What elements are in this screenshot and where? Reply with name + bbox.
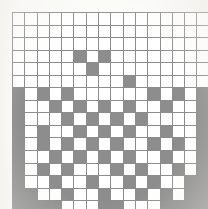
grid-cell-empty[interactable] bbox=[37, 13, 49, 26]
grid-cell-empty[interactable] bbox=[148, 188, 160, 201]
grid-cell-empty[interactable] bbox=[148, 151, 160, 164]
grid-cell-filled[interactable] bbox=[135, 188, 147, 201]
grid-cell-empty[interactable] bbox=[160, 138, 172, 151]
grid-cell-empty[interactable] bbox=[172, 125, 184, 138]
grid-cell-filled[interactable] bbox=[111, 138, 123, 151]
grid-cell-empty[interactable] bbox=[99, 38, 111, 51]
grid-cell-empty[interactable] bbox=[25, 25, 37, 38]
grid-cell-empty[interactable] bbox=[135, 50, 147, 63]
grid-cell-filled[interactable] bbox=[123, 176, 135, 189]
grid-cell-filled[interactable] bbox=[86, 138, 98, 151]
grid-cell-filled[interactable] bbox=[185, 201, 197, 209]
grid-cell-filled[interactable] bbox=[197, 176, 208, 189]
grid-cell-empty[interactable] bbox=[135, 176, 147, 189]
grid-cell-empty[interactable] bbox=[62, 13, 74, 26]
grid-cell-empty[interactable] bbox=[111, 63, 123, 76]
grid-cell-filled[interactable] bbox=[160, 201, 172, 209]
grid-cell-empty[interactable] bbox=[49, 188, 61, 201]
grid-cell-empty[interactable] bbox=[62, 38, 74, 51]
grid-cell-empty[interactable] bbox=[172, 63, 184, 76]
grid-cell-empty[interactable] bbox=[148, 201, 160, 209]
grid-cell-empty[interactable] bbox=[13, 75, 25, 88]
grid-cell-empty[interactable] bbox=[25, 88, 37, 101]
grid-cell-empty[interactable] bbox=[135, 125, 147, 138]
grid-cell-empty[interactable] bbox=[74, 138, 86, 151]
grid-cell-filled[interactable] bbox=[197, 100, 208, 113]
grid-cell-empty[interactable] bbox=[25, 13, 37, 26]
grid-cell-empty[interactable] bbox=[160, 176, 172, 189]
grid-cell-empty[interactable] bbox=[111, 13, 123, 26]
grid-cell-empty[interactable] bbox=[160, 88, 172, 101]
grid-cell-empty[interactable] bbox=[111, 50, 123, 63]
grid-cell-empty[interactable] bbox=[185, 63, 197, 76]
grid-cell-empty[interactable] bbox=[13, 63, 25, 76]
grid-cell-empty[interactable] bbox=[111, 151, 123, 164]
grid-cell-empty[interactable] bbox=[86, 163, 98, 176]
grid-cell-empty[interactable] bbox=[135, 38, 147, 51]
grid-cell-filled[interactable] bbox=[13, 88, 25, 101]
grid-cell-empty[interactable] bbox=[49, 125, 61, 138]
grid-cell-empty[interactable] bbox=[86, 188, 98, 201]
grid-cell-filled[interactable] bbox=[62, 88, 74, 101]
grid-cell-empty[interactable] bbox=[74, 13, 86, 26]
grid-cell-empty[interactable] bbox=[25, 163, 37, 176]
grid-cell-filled[interactable] bbox=[172, 201, 184, 209]
grid-cell-empty[interactable] bbox=[111, 125, 123, 138]
grid-cell-empty[interactable] bbox=[99, 138, 111, 151]
grid-cell-empty[interactable] bbox=[172, 13, 184, 26]
grid-cell-empty[interactable] bbox=[37, 75, 49, 88]
grid-cell-empty[interactable] bbox=[62, 176, 74, 189]
grid-cell-empty[interactable] bbox=[123, 163, 135, 176]
grid-cell-empty[interactable] bbox=[86, 88, 98, 101]
grid-cell-empty[interactable] bbox=[49, 113, 61, 126]
grid-cell-empty[interactable] bbox=[185, 25, 197, 38]
grid-cell-empty[interactable] bbox=[148, 50, 160, 63]
grid-cell-empty[interactable] bbox=[172, 176, 184, 189]
grid-cell-empty[interactable] bbox=[185, 38, 197, 51]
grid-cell-filled[interactable] bbox=[13, 201, 25, 209]
grid-cell-filled[interactable] bbox=[62, 138, 74, 151]
grid-cell-empty[interactable] bbox=[135, 63, 147, 76]
grid-cell-empty[interactable] bbox=[49, 13, 61, 26]
grid-cell-empty[interactable] bbox=[62, 50, 74, 63]
grid-cell-empty[interactable] bbox=[37, 188, 49, 201]
grid-cell-filled[interactable] bbox=[160, 151, 172, 164]
grid-cell-empty[interactable] bbox=[37, 151, 49, 164]
grid-cell-empty[interactable] bbox=[62, 125, 74, 138]
grid-cell-empty[interactable] bbox=[49, 163, 61, 176]
grid-cell-empty[interactable] bbox=[123, 63, 135, 76]
grid-cell-empty[interactable] bbox=[25, 50, 37, 63]
grid-cell-empty[interactable] bbox=[99, 13, 111, 26]
grid-cell-empty[interactable] bbox=[62, 63, 74, 76]
grid-cell-empty[interactable] bbox=[123, 113, 135, 126]
grid-cell-empty[interactable] bbox=[160, 113, 172, 126]
grid-cell-empty[interactable] bbox=[13, 50, 25, 63]
grid-cell-empty[interactable] bbox=[25, 38, 37, 51]
grid-cell-filled[interactable] bbox=[49, 176, 61, 189]
grid-cell-empty[interactable] bbox=[86, 125, 98, 138]
grid-cell-empty[interactable] bbox=[111, 188, 123, 201]
grid-cell-empty[interactable] bbox=[160, 163, 172, 176]
grid-cell-empty[interactable] bbox=[74, 188, 86, 201]
grid-cell-filled[interactable] bbox=[148, 88, 160, 101]
grid-cell-empty[interactable] bbox=[99, 113, 111, 126]
grid-cell-filled[interactable] bbox=[160, 125, 172, 138]
grid-cell-empty[interactable] bbox=[49, 63, 61, 76]
grid-cell-empty[interactable] bbox=[135, 100, 147, 113]
grid-cell-empty[interactable] bbox=[135, 201, 147, 209]
grid-cell-filled[interactable] bbox=[49, 100, 61, 113]
grid-cell-filled[interactable] bbox=[111, 113, 123, 126]
grid-cell-filled[interactable] bbox=[86, 63, 98, 76]
grid-cell-filled[interactable] bbox=[13, 151, 25, 164]
grid-cell-empty[interactable] bbox=[172, 38, 184, 51]
grid-cell-empty[interactable] bbox=[111, 75, 123, 88]
grid-cell-filled[interactable] bbox=[123, 125, 135, 138]
grid-cell-filled[interactable] bbox=[99, 50, 111, 63]
grid-cell-empty[interactable] bbox=[25, 75, 37, 88]
grid-cell-filled[interactable] bbox=[111, 163, 123, 176]
grid-cell-filled[interactable] bbox=[62, 188, 74, 201]
grid-cell-empty[interactable] bbox=[49, 88, 61, 101]
grid-cell-empty[interactable] bbox=[172, 25, 184, 38]
grid-cell-empty[interactable] bbox=[148, 75, 160, 88]
grid-cell-empty[interactable] bbox=[62, 25, 74, 38]
